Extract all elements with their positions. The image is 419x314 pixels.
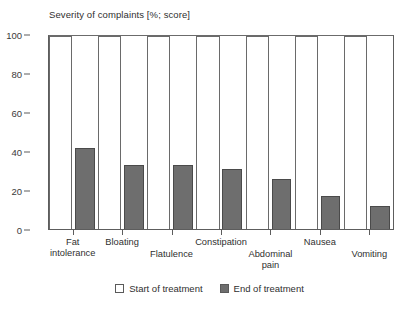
legend-swatch-icon (220, 284, 229, 293)
y-tick-mark (24, 35, 30, 36)
bar-group (246, 36, 295, 229)
bar-group (98, 36, 147, 229)
chart-legend: Start of treatmentEnd of treatment (0, 283, 419, 294)
legend-label: Start of treatment (129, 283, 202, 294)
bar-group (196, 36, 245, 229)
x-axis-label-line: Constipation (195, 237, 247, 248)
x-axis-label-line: Flatulence (150, 249, 193, 260)
y-tick-mark (24, 191, 30, 192)
bar-end-of-treatment (124, 165, 144, 229)
bar-start-of-treatment (344, 36, 367, 229)
x-axis-label: Fatintolerance (50, 237, 95, 259)
x-tick-mark (73, 230, 74, 235)
chart-title: Severity of complaints [%; score] (49, 9, 190, 20)
y-tick-label: 80 (11, 69, 22, 80)
bar-start-of-treatment (98, 36, 121, 229)
y-tick-label: 20 (11, 186, 22, 197)
bar-end-of-treatment (272, 179, 292, 229)
y-tick-label: 60 (11, 108, 22, 119)
bar-start-of-treatment (246, 36, 269, 229)
bar-group (147, 36, 196, 229)
x-axis-label-line: Vomiting (351, 249, 387, 260)
bar-end-of-treatment (222, 169, 242, 229)
x-axis-label-line: Abdominal (248, 249, 292, 260)
bar-end-of-treatment (75, 148, 95, 229)
legend-swatch-icon (115, 284, 124, 293)
legend-item: Start of treatment (115, 283, 202, 294)
bar-end-of-treatment (173, 165, 193, 229)
y-tick-label: 0 (17, 225, 22, 236)
legend-label: End of treatment (234, 283, 304, 294)
y-axis: 020406080100 (0, 0, 48, 314)
x-tick-mark (221, 230, 222, 235)
bar-start-of-treatment (196, 36, 219, 229)
x-tick-mark (270, 230, 271, 235)
bar-group (344, 36, 393, 229)
bar-end-of-treatment (321, 196, 341, 229)
x-axis-label-line: intolerance (50, 248, 95, 259)
x-tick-mark (320, 230, 321, 235)
bar-group (49, 36, 98, 229)
y-tick-mark (24, 113, 30, 114)
x-tick-mark (369, 230, 370, 235)
x-axis-label: Vomiting (351, 249, 387, 260)
bar-start-of-treatment (295, 36, 318, 229)
bar-end-of-treatment (370, 206, 390, 229)
y-tick-mark (24, 74, 30, 75)
bar-start-of-treatment (147, 36, 170, 229)
plot-area (48, 35, 394, 230)
x-tick-mark (122, 230, 123, 235)
y-tick-label: 40 (11, 147, 22, 158)
x-axis-label-line: Fat (50, 237, 95, 248)
chart-figure: Severity of complaints [%; score] 020406… (0, 0, 419, 314)
x-axis-label: Bloating (105, 237, 139, 248)
bar-start-of-treatment (49, 36, 72, 229)
x-axis-label: Nausea (304, 237, 336, 248)
legend-item: End of treatment (220, 283, 304, 294)
x-axis-label-line: Nausea (304, 237, 336, 248)
bar-group (295, 36, 344, 229)
y-tick-label: 100 (6, 30, 22, 41)
bars-layer (49, 36, 393, 229)
y-tick-mark (24, 152, 30, 153)
x-tick-mark (172, 230, 173, 235)
x-axis-label-line: pain (248, 260, 292, 271)
x-axis-label: Abdominalpain (248, 249, 292, 271)
x-axis-label-line: Bloating (105, 237, 139, 248)
y-tick-mark (24, 230, 30, 231)
x-axis-label: Constipation (195, 237, 247, 248)
x-axis: FatintoleranceBloatingFlatulenceConstipa… (48, 230, 394, 278)
x-axis-label: Flatulence (150, 249, 193, 260)
